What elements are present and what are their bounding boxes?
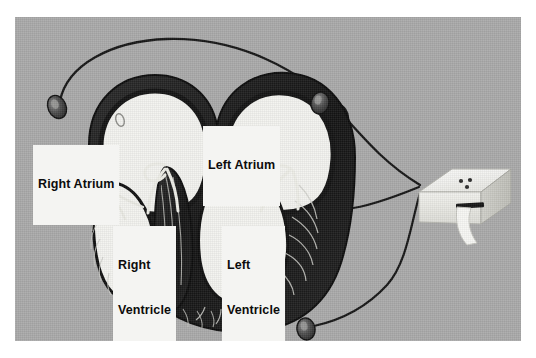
- indicator-dot-1: [459, 179, 463, 183]
- device-front-face: [419, 192, 481, 224]
- electrode-lower-right[interactable]: [295, 317, 317, 341]
- label-right-atrium: Right Atrium: [33, 145, 119, 225]
- indicator-dot-3: [465, 185, 469, 189]
- label-left-ventricle-line1: Left: [227, 258, 280, 273]
- screenshot-root: Right Atrium Left Atrium Right Ventricle…: [0, 0, 536, 358]
- ecg-recorder[interactable]: [419, 169, 511, 245]
- electrode-upper-left[interactable]: [44, 92, 70, 121]
- label-right-ventricle: Right Ventricle: [113, 226, 176, 341]
- photograph-plate: Right Atrium Left Atrium Right Ventricle…: [15, 17, 521, 341]
- label-left-ventricle: Left Ventricle: [222, 226, 285, 341]
- scene: Right Atrium Left Atrium Right Ventricle…: [15, 17, 521, 341]
- label-left-atrium-text: Left Atrium: [208, 158, 275, 173]
- label-right-ventricle-line2: Ventricle: [118, 303, 171, 318]
- label-right-atrium-text: Right Atrium: [38, 177, 114, 192]
- indicator-dot-2: [468, 178, 472, 182]
- label-right-ventricle-line1: Right: [118, 258, 171, 273]
- label-left-ventricle-line2: Ventricle: [227, 303, 280, 318]
- label-left-atrium: Left Atrium: [203, 126, 280, 206]
